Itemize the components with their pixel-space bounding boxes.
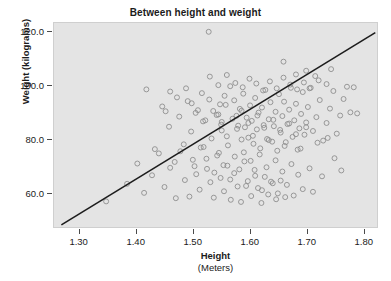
regression-line-layer bbox=[54, 23, 377, 227]
x-axis-tick-label: 1.60 bbox=[227, 236, 273, 247]
y-axis-tick-mark bbox=[47, 85, 52, 86]
chart-title: Between height and weight bbox=[0, 7, 391, 18]
y-axis-tick-label: 60.0 bbox=[0, 187, 44, 198]
x-axis-tick-label: 1.40 bbox=[113, 236, 159, 247]
x-axis-tick-mark bbox=[79, 229, 80, 234]
x-axis-tick-label: 1.70 bbox=[284, 236, 330, 247]
chart-figure: Between height and weight 60.080.0100.01… bbox=[0, 0, 391, 281]
plot-area bbox=[53, 22, 378, 228]
x-axis-tick-mark bbox=[307, 229, 308, 234]
x-axis-tick-mark bbox=[193, 229, 194, 234]
x-axis-tick-label: 1.50 bbox=[170, 236, 216, 247]
y-axis-tick-mark bbox=[47, 193, 52, 194]
x-axis-tick-label: 1.30 bbox=[56, 236, 102, 247]
x-axis-tick-mark bbox=[250, 229, 251, 234]
y-axis-tick-mark bbox=[47, 139, 52, 140]
regression-line bbox=[61, 33, 375, 225]
x-axis-tick-mark bbox=[136, 229, 137, 234]
x-axis-title: Height bbox=[53, 250, 378, 261]
x-axis-tick-label: 1.80 bbox=[341, 236, 387, 247]
x-axis-units-label: (Meters) bbox=[53, 262, 378, 273]
x-axis-tick-mark bbox=[364, 229, 365, 234]
y-axis-tick-mark bbox=[47, 31, 52, 32]
y-axis-title: Weight (kilograms) bbox=[20, 0, 31, 147]
